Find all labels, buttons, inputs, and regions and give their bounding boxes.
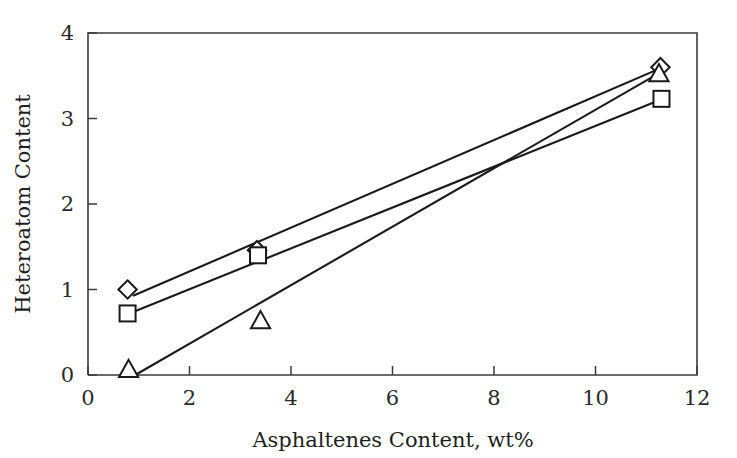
scatter-plot: 024681012 01234 Asphaltenes Content, wt%… [0, 0, 737, 458]
x-tick-label: 8 [487, 386, 500, 410]
marker-square [120, 305, 136, 321]
y-axis-title: Heteroatom Content [11, 94, 35, 314]
marker-square [653, 91, 669, 107]
y-tick-label: 1 [61, 278, 74, 302]
x-tick-label: 10 [582, 386, 609, 410]
y-tick-label: 2 [61, 192, 74, 216]
x-axis-title: Asphaltenes Content, wt% [251, 428, 533, 452]
chart-container: 024681012 01234 Asphaltenes Content, wt%… [0, 0, 737, 458]
x-tick-label: 12 [684, 386, 711, 410]
plot-background [0, 0, 737, 458]
x-tick-label: 4 [284, 386, 297, 410]
x-tick-label: 0 [81, 386, 94, 410]
marker-square [250, 247, 266, 263]
x-tick-label: 6 [386, 386, 399, 410]
x-tick-label: 2 [183, 386, 196, 410]
y-tick-label: 4 [61, 21, 74, 45]
y-tick-label: 3 [61, 107, 74, 131]
y-tick-label: 0 [61, 363, 74, 387]
